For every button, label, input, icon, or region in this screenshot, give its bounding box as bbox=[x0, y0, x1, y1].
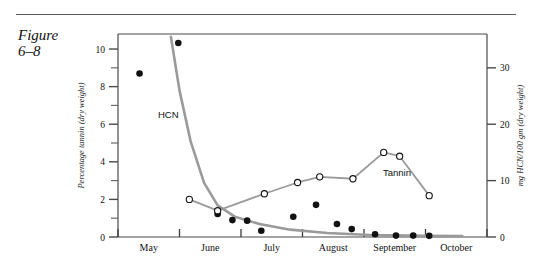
data-point-tannin bbox=[294, 179, 300, 185]
y-axis-title: Percentage tannin (dry weight) bbox=[76, 82, 86, 189]
data-point-tannin bbox=[397, 153, 403, 159]
data-point-hcn bbox=[426, 233, 433, 240]
data-point-tannin bbox=[350, 176, 356, 182]
y-axis-tick-label: 10 bbox=[96, 45, 106, 55]
y-axis-tick-label: 4 bbox=[100, 157, 105, 167]
series-line-tannin bbox=[189, 152, 429, 210]
x-axis-month-label: July bbox=[263, 242, 280, 253]
data-point-hcn bbox=[334, 221, 341, 228]
y-axis-tick-label: 0 bbox=[100, 233, 105, 243]
data-point-hcn bbox=[229, 217, 236, 224]
data-point-tannin bbox=[381, 149, 387, 155]
x-axis-month-label: June bbox=[201, 242, 220, 253]
series-annotation-hcn: HCN bbox=[158, 109, 179, 120]
data-point-hcn bbox=[244, 217, 251, 224]
data-point-hcn bbox=[313, 202, 320, 209]
y2-axis-tick-label: 20 bbox=[500, 120, 510, 130]
data-point-hcn bbox=[136, 70, 143, 77]
y2-axis-tick-label: 10 bbox=[500, 176, 510, 186]
chart-plot-area: 02468100102030MayJuneJulyAugustSeptember… bbox=[0, 0, 534, 268]
y2-axis-tick-label: 30 bbox=[500, 63, 510, 73]
data-point-tannin bbox=[317, 174, 323, 180]
x-axis-month-label: August bbox=[319, 242, 348, 253]
chart-svg: 02468100102030MayJuneJulyAugustSeptember… bbox=[0, 0, 534, 268]
data-point-tannin bbox=[261, 191, 267, 197]
y2-axis-tick-label: 0 bbox=[500, 233, 505, 243]
y-axis-tick-label: 2 bbox=[100, 195, 105, 205]
y-axis-tick-label: 6 bbox=[100, 120, 105, 130]
series-annotation-tannin: Tannin bbox=[383, 167, 411, 178]
data-point-tannin bbox=[215, 208, 221, 214]
data-point-hcn bbox=[393, 232, 400, 239]
data-point-hcn bbox=[410, 232, 417, 239]
data-point-hcn bbox=[290, 213, 297, 220]
figure-container: Figure 6–8 02468100102030MayJuneJulyAugu… bbox=[0, 0, 534, 268]
data-point-tannin bbox=[186, 196, 192, 202]
data-point-hcn bbox=[175, 40, 182, 47]
y2-axis-title: mg HCN/100 gm (dry weight) bbox=[515, 85, 525, 187]
data-point-hcn bbox=[258, 227, 265, 234]
x-axis-month-label: September bbox=[373, 242, 416, 253]
data-point-tannin bbox=[426, 193, 432, 199]
x-axis-month-label: May bbox=[140, 242, 158, 253]
data-point-hcn bbox=[372, 231, 379, 238]
x-axis-month-label: October bbox=[440, 242, 473, 253]
y-axis-tick-label: 8 bbox=[100, 82, 105, 92]
data-point-hcn bbox=[348, 226, 355, 233]
